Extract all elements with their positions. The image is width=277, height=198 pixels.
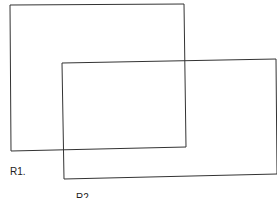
diagram-canvas [0, 0, 277, 198]
rectangle-r2 [62, 59, 277, 179]
label-r1: R1. [10, 166, 26, 177]
rectangle-r1 [10, 4, 186, 151]
label-r2: R2 [76, 192, 89, 198]
